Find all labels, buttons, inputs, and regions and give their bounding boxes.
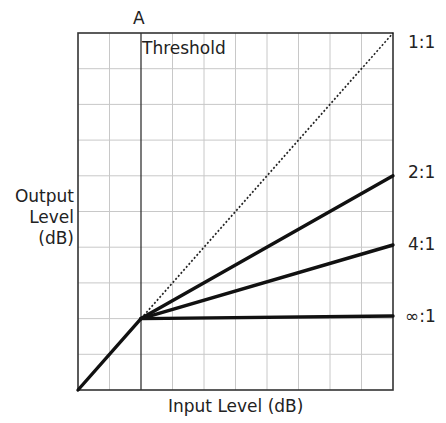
y-axis-label: Output Level (dB) <box>8 186 74 249</box>
ratio-label-4-1: 4:1 <box>408 234 435 254</box>
y-axis-label-line-3: (dB) <box>8 228 74 249</box>
ratio-label-2-1: 2:1 <box>408 162 435 182</box>
y-axis-label-line-2: Level <box>8 207 74 228</box>
y-axis-label-line-1: Output <box>8 186 74 207</box>
ratio-label-inf-1: ∞:1 <box>405 306 436 326</box>
x-axis-label: Input Level (dB) <box>168 396 303 416</box>
threshold-label: Threshold <box>142 38 226 58</box>
marker-label: A <box>133 8 145 28</box>
ratio-label-1-1: 1:1 <box>408 32 435 52</box>
